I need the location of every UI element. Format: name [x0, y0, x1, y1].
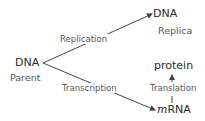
- translation-label: Translation: [149, 83, 197, 93]
- protein-label: protein: [154, 59, 193, 72]
- replication-label: Replication: [59, 34, 108, 44]
- transcription-label: Transcription: [61, 83, 118, 93]
- parent-sublabel: Parent: [10, 72, 40, 83]
- mrna-main: RNA: [167, 103, 190, 116]
- replica-dna-label: DNA: [153, 7, 177, 20]
- parent-dna-label: DNA: [15, 56, 39, 69]
- replica-sublabel: Replica: [158, 25, 192, 36]
- mrna-prefix: m: [157, 103, 167, 116]
- mrna-label: mRNA: [157, 103, 191, 116]
